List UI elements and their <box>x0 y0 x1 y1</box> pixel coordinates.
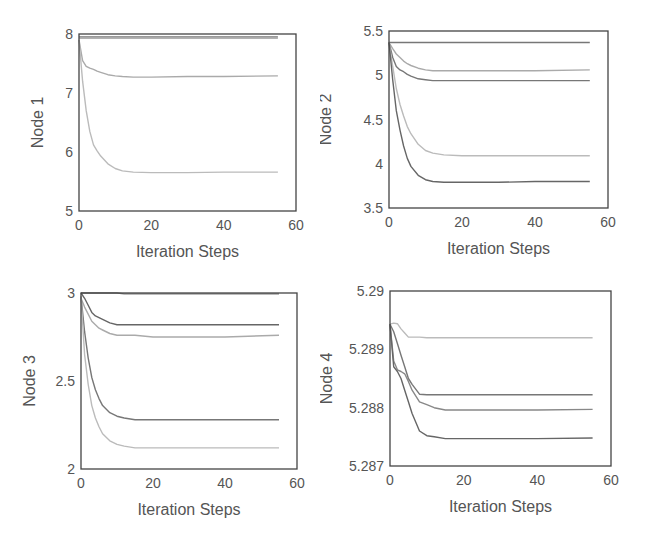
y-tick-label: 3 <box>67 285 75 301</box>
x-tick-label: 40 <box>216 217 232 233</box>
x-axis-label: Iteration Steps <box>449 498 552 515</box>
y-axis-label: Node 3 <box>21 355 38 407</box>
x-tick-label: 40 <box>527 214 543 230</box>
y-tick-label: 5.287 <box>349 458 384 474</box>
series-line-line-c <box>81 298 279 337</box>
y-tick-label: 5.29 <box>357 283 384 299</box>
chart-svg: 02040603.544.555.5Iteration StepsNode 2 <box>320 0 649 275</box>
x-axis-label: Iteration Steps <box>447 240 550 257</box>
y-axis-label: Node 1 <box>29 97 46 149</box>
y-tick-label: 5 <box>65 203 73 219</box>
chart-svg: 02040605678Iteration StepsNode 1 <box>0 0 325 275</box>
chart-svg: 020406022.53Iteration StepsNode 3 <box>0 270 325 555</box>
series-line-line-d <box>389 43 590 156</box>
x-axis-label: Iteration Steps <box>137 501 240 518</box>
x-tick-label: 60 <box>600 214 616 230</box>
series-line-line-d <box>390 324 593 438</box>
series-line-line-d <box>81 297 279 420</box>
series-line-line-e <box>389 43 590 183</box>
series-line-line-a <box>390 323 593 338</box>
x-axis-label: Iteration Steps <box>136 243 239 260</box>
chart-node-2: 02040603.544.555.5Iteration StepsNode 2 <box>320 0 649 275</box>
series-line-line-b <box>81 293 279 325</box>
y-tick-label: 5.289 <box>349 341 384 357</box>
x-tick-label: 60 <box>288 217 304 233</box>
series-line-line-c <box>79 40 278 77</box>
x-tick-label: 0 <box>386 472 394 488</box>
y-tick-label: 3.5 <box>364 200 384 216</box>
x-tick-label: 60 <box>289 475 305 491</box>
x-tick-label: 20 <box>144 217 160 233</box>
x-tick-label: 0 <box>75 217 83 233</box>
x-tick-label: 20 <box>145 475 161 491</box>
y-tick-label: 7 <box>65 85 73 101</box>
series-line-line-e <box>81 297 279 448</box>
series-line-line-c <box>389 43 590 81</box>
plot-frame <box>390 291 611 466</box>
x-tick-label: 20 <box>454 214 470 230</box>
chart-svg: 02040605.2875.2885.2895.29Iteration Step… <box>320 270 649 555</box>
y-tick-label: 5.288 <box>349 400 384 416</box>
chart-node-3: 020406022.53Iteration StepsNode 3 <box>0 270 325 555</box>
chart-node-4: 02040605.2875.2885.2895.29Iteration Step… <box>320 270 649 555</box>
x-tick-label: 60 <box>603 472 619 488</box>
y-tick-label: 2.5 <box>56 373 76 389</box>
y-tick-label: 6 <box>65 144 73 160</box>
x-tick-label: 0 <box>77 475 85 491</box>
series-line-line-b <box>390 324 593 395</box>
y-tick-label: 5.5 <box>364 23 384 39</box>
x-tick-label: 40 <box>530 472 546 488</box>
x-tick-label: 20 <box>456 472 472 488</box>
chart-node-1: 02040605678Iteration StepsNode 1 <box>0 0 325 275</box>
plot-frame <box>79 34 296 211</box>
y-tick-label: 4.5 <box>364 112 384 128</box>
series-line-line-b <box>389 43 590 71</box>
y-tick-label: 4 <box>375 156 383 172</box>
y-tick-label: 5 <box>375 67 383 83</box>
x-tick-label: 0 <box>385 214 393 230</box>
y-axis-label: Node 4 <box>320 353 335 405</box>
y-axis-label: Node 2 <box>320 94 334 146</box>
y-tick-label: 2 <box>67 461 75 477</box>
x-tick-label: 40 <box>217 475 233 491</box>
series-line-line-d <box>79 40 278 173</box>
y-tick-label: 8 <box>65 26 73 42</box>
